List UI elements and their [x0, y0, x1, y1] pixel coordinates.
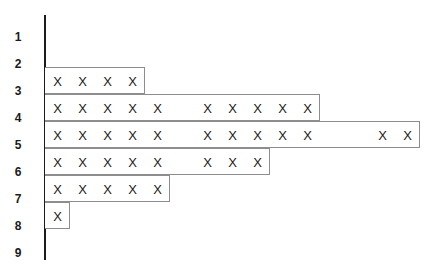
x-mark: X [120, 176, 145, 203]
bar-row-6: XXXXXXXX [45, 148, 270, 175]
x-mark: X [120, 68, 145, 95]
x-mark: X [120, 95, 145, 122]
x-mark: X [370, 122, 395, 149]
x-mark: X [45, 122, 70, 149]
bar-row-4: XXXXXXXXXX [45, 94, 320, 121]
empty-cell [345, 122, 370, 149]
x-mark: X [270, 122, 295, 149]
x-mark: X [45, 149, 70, 176]
x-mark: X [45, 95, 70, 122]
x-mark: X [145, 122, 170, 149]
x-mark: X [220, 149, 245, 176]
x-mark: X [45, 68, 70, 95]
y-axis-tick-4: 4 [0, 112, 36, 124]
empty-cell [170, 95, 195, 122]
y-axis-tick-2: 2 [0, 58, 36, 70]
x-mark: X [45, 203, 70, 230]
x-mark: X [195, 149, 220, 176]
y-axis-tick-5: 5 [0, 139, 36, 151]
x-mark: X [245, 95, 270, 122]
x-mark: X [395, 122, 420, 149]
x-mark: X [195, 95, 220, 122]
bar-row-7: XXXXX [45, 175, 170, 202]
x-mark: X [95, 122, 120, 149]
x-mark: X [95, 149, 120, 176]
x-mark: X [295, 122, 320, 149]
empty-cell [170, 122, 195, 149]
y-axis-tick-3: 3 [0, 85, 36, 97]
x-mark: X [95, 95, 120, 122]
x-mark: X [45, 176, 70, 203]
y-axis-tick-8: 8 [0, 220, 36, 232]
x-mark: X [220, 122, 245, 149]
x-mark: X [245, 149, 270, 176]
x-mark: X [120, 122, 145, 149]
x-mark: X [70, 122, 95, 149]
y-axis-tick-6: 6 [0, 166, 36, 178]
x-mark: X [245, 122, 270, 149]
x-mark: X [220, 95, 245, 122]
x-mark: X [95, 68, 120, 95]
x-mark: X [270, 95, 295, 122]
x-mark: X [70, 68, 95, 95]
x-mark: X [70, 176, 95, 203]
x-mark: X [95, 176, 120, 203]
y-axis-tick-7: 7 [0, 193, 36, 205]
y-axis-tick-1: 1 [0, 31, 36, 43]
bar-row-8: X [45, 202, 70, 229]
x-mark: X [70, 149, 95, 176]
x-mark: X [145, 149, 170, 176]
x-mark: X [70, 95, 95, 122]
y-axis-tick-9: 9 [0, 247, 36, 259]
x-mark: X [145, 176, 170, 203]
bar-row-5: XXXXXXXXXXXX [45, 121, 420, 148]
x-mark: X [295, 95, 320, 122]
x-mark: X [195, 122, 220, 149]
empty-cell [170, 149, 195, 176]
empty-cell [320, 122, 345, 149]
x-mark: X [145, 95, 170, 122]
bar-row-3: XXXX [45, 67, 145, 94]
x-mark: X [120, 149, 145, 176]
pictogram-bar-chart: 1 2 3 4 5 6 7 8 9 XXXXXXXXXXXXXXXXXXXXXX… [0, 0, 437, 273]
